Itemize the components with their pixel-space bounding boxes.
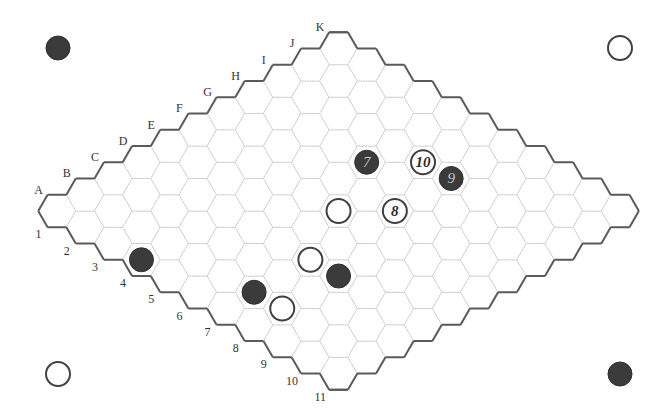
column-label-H: H [231, 69, 240, 83]
column-label-I: I [262, 53, 266, 67]
white-stone-icon [270, 297, 294, 321]
row-label-5: 5 [148, 292, 154, 306]
stone-white-I6: 10 [411, 150, 435, 174]
column-label-K: K [316, 20, 325, 34]
row-label-7: 7 [205, 325, 211, 339]
move-number-label: 8 [391, 203, 399, 219]
row-label-10: 10 [286, 374, 298, 388]
column-label-B: B [63, 166, 71, 180]
column-label-F: F [176, 101, 183, 115]
corner-marker-top-left-black [46, 36, 70, 60]
stone-white-B8 [270, 297, 294, 321]
stone-black-B7 [242, 280, 266, 304]
black-stone-icon [242, 280, 266, 304]
row-label-9: 9 [261, 357, 267, 371]
stone-white-D7 [298, 248, 322, 272]
stone-white-G7: 8 [383, 199, 407, 223]
corner-marker-top-right-white [608, 36, 632, 60]
white-stone-icon [327, 199, 351, 223]
row-label-11: 11 [314, 390, 326, 404]
hex-board: ABCDEFGHIJK1234567891011 71098 [0, 0, 672, 418]
white-stone-icon [298, 248, 322, 272]
stone-black-A4 [129, 248, 153, 272]
row-label-8: 8 [233, 341, 239, 355]
corner-marker-bottom-right-black [608, 362, 632, 386]
row-label-3: 3 [92, 260, 98, 274]
stone-black-I7: 9 [439, 166, 463, 190]
row-label-1: 1 [36, 227, 42, 241]
row-label-2: 2 [64, 244, 70, 258]
stone-black-D8 [327, 264, 351, 288]
column-label-G: G [203, 85, 212, 99]
black-stone-icon [327, 264, 351, 288]
column-label-A: A [34, 183, 43, 197]
stone-white-F6 [327, 199, 351, 223]
column-label-C: C [91, 150, 99, 164]
row-label-4: 4 [120, 276, 126, 290]
stone-black-H5: 7 [355, 150, 379, 174]
black-stone-icon [129, 248, 153, 272]
corner-marker-bottom-left-white [46, 362, 70, 386]
column-label-D: D [119, 134, 128, 148]
column-label-J: J [290, 36, 295, 50]
move-number-label: 10 [416, 154, 432, 170]
move-number-label: 9 [447, 170, 455, 186]
column-label-E: E [148, 118, 155, 132]
row-label-6: 6 [176, 309, 182, 323]
